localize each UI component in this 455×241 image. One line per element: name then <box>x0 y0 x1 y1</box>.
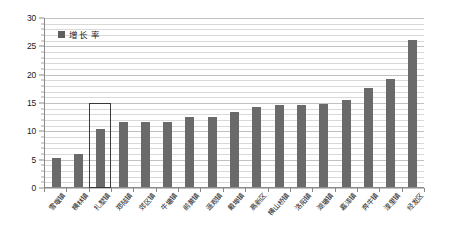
legend-swatch-icon <box>58 31 65 38</box>
bar-series <box>45 18 424 187</box>
bar-slot <box>335 18 357 187</box>
bar[interactable] <box>386 79 395 187</box>
bar-slot <box>223 18 245 187</box>
bar-slot <box>402 18 424 187</box>
bar-slot <box>179 18 201 187</box>
legend: 增长 率 <box>58 28 100 40</box>
bar-slot <box>156 18 178 187</box>
y-axis: 051015202530 <box>0 18 44 188</box>
bar-slot <box>134 18 156 187</box>
bar-slot <box>45 18 67 187</box>
y-axis-tick-label: 15 <box>0 98 44 108</box>
bar[interactable] <box>52 158 61 187</box>
bar-chart: 051015202530 雪堰镇横林镇扎墅镇郑陆镇郊区镇牛塘镇前黄镇遥观镇戴埠镇… <box>0 0 455 241</box>
y-axis-tick-label: 0 <box>0 183 44 193</box>
bar[interactable] <box>408 40 417 187</box>
bar-slot <box>67 18 89 187</box>
y-axis-tick-label: 25 <box>0 41 44 51</box>
plot-area <box>44 18 424 188</box>
bar-slot <box>357 18 379 187</box>
bar-slot <box>201 18 223 187</box>
bar-slot <box>268 18 290 187</box>
y-axis-tick-label: 10 <box>0 126 44 136</box>
bar-slot <box>379 18 401 187</box>
bar-slot <box>290 18 312 187</box>
x-axis-labels: 雪堰镇横林镇扎墅镇郑陆镇郊区镇牛塘镇前黄镇遥观镇戴埠镇高新区横山桥镇洛阳镇湖塘镇… <box>44 190 424 241</box>
bar[interactable] <box>364 88 373 187</box>
y-axis-tick-label: 30 <box>0 13 44 23</box>
bar-slot <box>90 18 112 187</box>
bar[interactable] <box>342 100 351 187</box>
bar-slot <box>246 18 268 187</box>
bar-slot <box>112 18 134 187</box>
bar-slot <box>313 18 335 187</box>
y-axis-tick-label: 5 <box>0 155 44 165</box>
y-axis-tick-label: 20 <box>0 70 44 80</box>
legend-label: 增长 率 <box>69 28 100 40</box>
